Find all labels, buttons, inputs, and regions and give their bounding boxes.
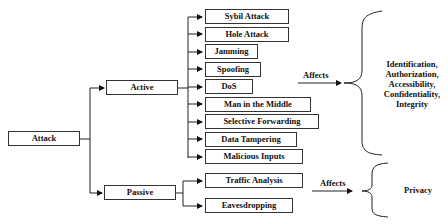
malicious-inputs-node: Malicious Inputs [205,149,303,164]
attack-node: Attack [8,131,80,146]
effect-integrity: Integrity [374,99,448,109]
spoofing-node: Spoofing [205,62,261,77]
passive-affects-label: Affects [320,178,345,188]
effect-accessibility: Accessibility, [374,79,448,89]
passive-effects-list: Privacy [396,185,440,195]
effect-identification: Identification, [374,59,448,69]
jamming-node: Jamming [205,44,258,59]
active-effects-list: Identification, Authorization, Accessibi… [374,59,448,109]
selective-forwarding-node: Selective Forwarding [205,114,319,129]
sybil-attack-node: Sybil Attack [205,9,289,24]
man-in-the-middle-node: Man in the Middle [205,97,311,112]
active-affects-label: Affects [303,70,328,80]
active-node: Active [106,80,178,95]
traffic-analysis-node: Traffic Analysis [205,173,303,188]
effect-privacy: Privacy [396,185,440,195]
dos-node: DoS [205,79,253,94]
passive-node: Passive [104,185,176,200]
attack-taxonomy-diagram: Attack Active Passive Sybil Attack Hole … [0,0,448,224]
hole-attack-node: Hole Attack [205,27,289,42]
eavesdropping-node: Eavesdropping [205,198,293,213]
data-tampering-node: Data Tampering [205,132,297,147]
effect-confidentiality: Confidentiality, [374,89,448,99]
effect-authorization: Authorization, [374,69,448,79]
